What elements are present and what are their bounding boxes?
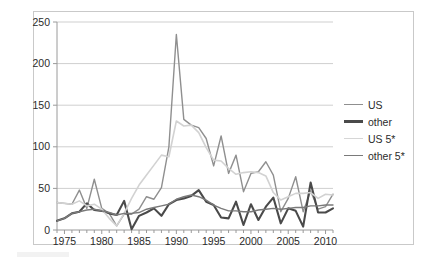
legend-swatch-icon <box>344 138 363 139</box>
bottom-artifact <box>17 252 69 257</box>
legend-label: other <box>368 116 392 128</box>
legend-item-us-5-[interactable]: US 5* <box>344 130 422 147</box>
y-tick-label-100: 100 <box>0 141 50 152</box>
legend-swatch-icon <box>344 120 363 123</box>
x-tick-label-1980: 1980 <box>85 236 119 247</box>
x-tick-label-1975: 1975 <box>47 236 81 247</box>
legend-label: other 5* <box>368 150 405 162</box>
y-tick-label-50: 50 <box>0 183 50 194</box>
x-tick-label-1990: 1990 <box>159 236 193 247</box>
y-tick-label-150: 150 <box>0 100 50 111</box>
x-tick-label-1995: 1995 <box>197 236 231 247</box>
x-tick-label-2010: 2010 <box>309 236 343 247</box>
legend-label: US 5* <box>368 133 395 145</box>
chart-container: 050100150200250 197519801985199019952000… <box>0 0 424 265</box>
legend-item-other[interactable]: other <box>344 113 422 130</box>
x-tick-label-2005: 2005 <box>271 236 305 247</box>
gridlines-group <box>57 22 333 188</box>
y-tick-label-250: 250 <box>0 17 50 28</box>
chart-legend: USotherUS 5*other 5* <box>344 96 422 164</box>
legend-swatch-icon <box>344 155 363 156</box>
x-tick-label-1985: 1985 <box>122 236 156 247</box>
series-line-other-5- <box>57 195 333 221</box>
legend-item-other-5-[interactable]: other 5* <box>344 147 422 164</box>
legend-swatch-icon <box>344 104 363 105</box>
y-tick-label-0: 0 <box>0 225 50 236</box>
x-tick-label-2000: 2000 <box>234 236 268 247</box>
legend-label: US <box>368 99 383 111</box>
y-tick-label-200: 200 <box>0 58 50 69</box>
legend-item-us[interactable]: US <box>344 96 422 113</box>
